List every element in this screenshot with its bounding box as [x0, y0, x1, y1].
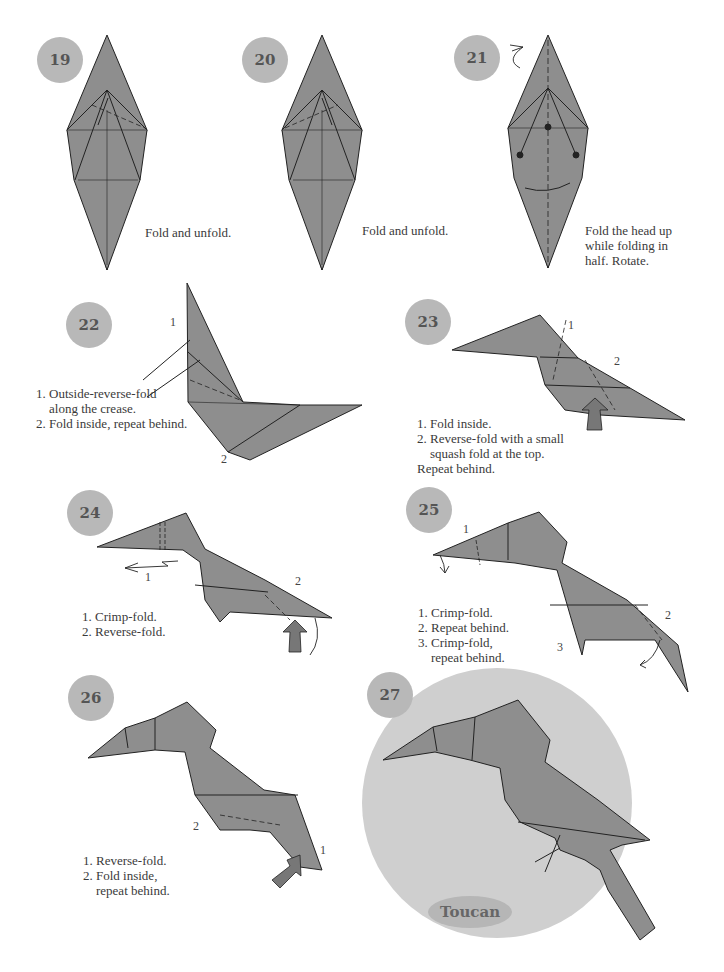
step-24-caption: 1. Crimp-fold. 2. Reverse-fold. [82, 609, 165, 639]
step-24-badge: 24 [67, 490, 113, 536]
step-25-label-2: 2 [665, 608, 671, 623]
step-25-label-1: 1 [463, 522, 469, 537]
step-23-label-1: 1 [568, 318, 574, 333]
origami-diagrams [0, 0, 724, 972]
step-26-badge: 26 [68, 675, 114, 721]
step-26-label-1: 1 [320, 843, 326, 858]
step-26-caption: 1. Reverse-fold. 2. Fold inside, repeat … [83, 853, 170, 898]
step-19-badge: 19 [37, 37, 83, 83]
push-arrow-26 [272, 855, 301, 888]
model-title-badge: Toucan [428, 896, 512, 928]
step-21-caption: Fold the head up while folding in half. … [585, 223, 672, 268]
curl-arrow-21 [510, 45, 523, 68]
step-27-final-model [383, 700, 655, 940]
step-23-badge: 23 [405, 299, 451, 345]
step-22-badge: 22 [66, 302, 112, 348]
step-26-diagram [88, 702, 322, 870]
step-20-diagram [282, 35, 362, 270]
step-25-badge: 25 [406, 487, 452, 533]
curl-arrow-25 [440, 555, 449, 573]
step-25-label-3: 3 [557, 640, 563, 655]
push-arrow-24 [283, 620, 307, 652]
step-21-diagram [508, 35, 588, 268]
step-23-label-2: 2 [614, 354, 620, 369]
step-24-label-1: 1 [145, 570, 151, 585]
step-27-badge: 27 [367, 672, 413, 718]
step-24-label-2: 2 [295, 574, 301, 589]
step-22-label-2: 2 [221, 452, 227, 467]
step-21-badge: 21 [454, 35, 500, 81]
step-25-diagram [433, 512, 688, 692]
step-19-caption: Fold and unfold. [145, 225, 231, 240]
step-22-label-1: 1 [170, 315, 176, 330]
curl-arrow-24 [310, 618, 318, 655]
step-23-caption: 1. Fold inside. 2. Reverse-fold with a s… [417, 416, 564, 476]
step-26-label-2: 2 [193, 819, 199, 834]
step-22-caption: 1. Outside-reverse-fold along the crease… [36, 386, 187, 431]
curl-arrow-25b [640, 640, 660, 668]
step-25-caption: 1. Crimp-fold. 2. Repeat behind. 3. Crim… [418, 605, 509, 665]
step-22-diagram [143, 283, 362, 460]
step-20-caption: Fold and unfold. [362, 223, 448, 238]
move-arrow-24 [125, 561, 178, 572]
step-20-badge: 20 [242, 37, 288, 83]
